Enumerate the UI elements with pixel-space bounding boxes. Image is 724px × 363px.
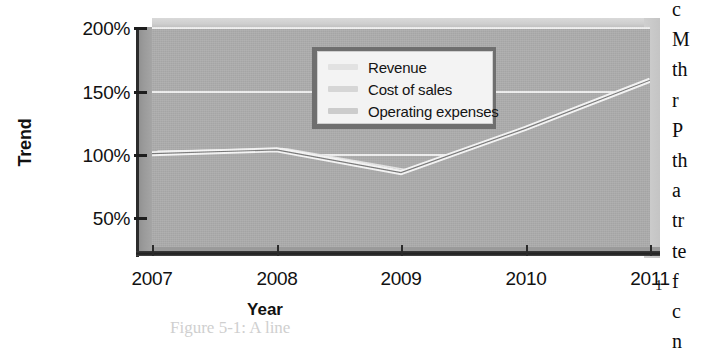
chart-figure: Trend 200% 150% 100% 50% Figure 5-1: A l…	[0, 0, 660, 363]
x-tick-mark	[152, 245, 154, 256]
x-axis-tick-labels: 2007 2008 2009 2010 2011	[0, 268, 660, 294]
y-tick-mark	[134, 217, 147, 220]
body-text-line: th	[672, 54, 724, 84]
x-tick-label: 2009	[366, 268, 436, 290]
x-tick-mark	[526, 245, 528, 256]
y-tick-label: 50%	[48, 208, 130, 230]
x-tick-mark	[277, 245, 279, 256]
x-tick-mark	[650, 245, 652, 256]
y-tick-label: 150%	[48, 82, 130, 104]
body-text-line: P	[672, 115, 724, 145]
legend-swatch-icon	[328, 108, 358, 114]
legend-item-operating-expenses: Operating expenses	[318, 100, 492, 122]
body-text-line: tr	[672, 205, 724, 235]
body-text-line: th	[672, 145, 724, 175]
body-text-line: c	[672, 296, 724, 326]
x-tick-label: 2007	[117, 268, 187, 290]
x-tick-label: 2008	[242, 268, 312, 290]
legend-item-label: Operating expenses	[368, 103, 499, 120]
body-text-line: f	[672, 266, 724, 296]
plot-area: Revenue Cost of sales Operating expenses	[136, 18, 660, 264]
legend-item-revenue: Revenue	[318, 56, 492, 78]
legend-box: Revenue Cost of sales Operating expenses	[317, 51, 493, 124]
y-tick-mark	[134, 154, 147, 157]
legend-item-label: Revenue	[368, 59, 427, 76]
body-text-line: n	[672, 326, 724, 356]
page-showthrough-ghost: Figure 5-1: A line	[170, 318, 290, 338]
y-axis-title: Trend	[10, 92, 40, 192]
x-axis-line	[136, 251, 660, 256]
y-tick-label: 100%	[48, 145, 130, 167]
x-tick-mark	[401, 245, 403, 256]
x-axis-title: Year	[0, 300, 530, 320]
y-tick-mark	[134, 27, 147, 30]
legend-swatch-icon	[328, 86, 358, 92]
page-number: 1	[655, 277, 663, 294]
y-axis-line	[136, 27, 139, 257]
body-text-line: M	[672, 24, 724, 54]
y-axis-title-label: Trend	[15, 118, 36, 166]
legend-swatch-icon	[328, 64, 358, 70]
body-text-line: r	[672, 85, 724, 115]
plot-left-wall	[137, 27, 153, 256]
body-text-line: a	[672, 175, 724, 205]
body-text-line: c	[672, 0, 724, 24]
body-text-column: c M th r P th a tr te f c n	[672, 0, 724, 363]
chart-legend: Revenue Cost of sales Operating expenses	[312, 47, 496, 129]
y-tick-mark	[134, 91, 147, 94]
body-text-line: te	[672, 236, 724, 266]
legend-item-cost-of-sales: Cost of sales	[318, 78, 492, 100]
legend-item-label: Cost of sales	[368, 81, 452, 98]
y-tick-label: 200%	[48, 18, 130, 40]
x-tick-label: 2010	[491, 268, 561, 290]
